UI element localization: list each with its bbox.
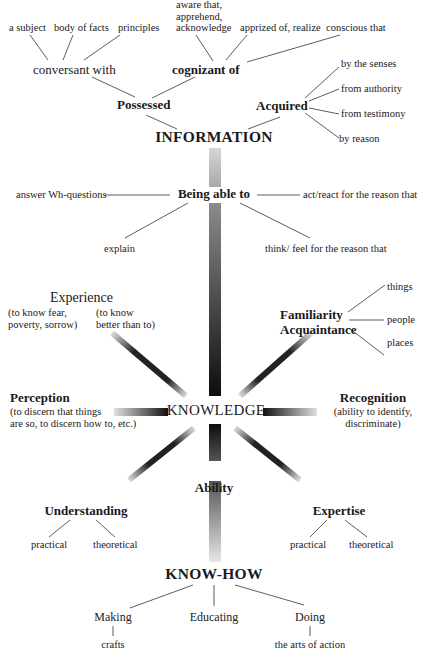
bar-understanding	[129, 428, 194, 480]
source-by-reason: by reason	[339, 133, 380, 145]
synonym-conscious-that: conscious that	[326, 22, 386, 34]
knowledge-diagram: a subject body of facts principles aware…	[0, 0, 426, 657]
node-making: Making	[94, 610, 131, 625]
recognition-note: (ability to identify, discriminate)	[334, 406, 412, 430]
spine-segment-upper	[209, 203, 221, 396]
ability-act-react: act/react for the reason that	[303, 189, 417, 201]
ability-explain: explain	[104, 243, 135, 255]
synonym-apprized-of: apprized of, realize	[240, 22, 321, 34]
node-experience: Experience	[50, 290, 113, 306]
node-understanding: Understanding	[44, 503, 127, 519]
node-familiarity-acquaintance: Familiarity Acquaintance	[280, 307, 357, 337]
understanding-practical: practical	[31, 539, 67, 551]
bar-familiarity	[240, 333, 311, 396]
node-educating: Educating	[190, 610, 239, 625]
bar-experience	[112, 333, 186, 396]
node-being-able-to: Being able to	[178, 186, 250, 202]
ability-think-feel: think/ feel for the reason that	[265, 243, 387, 255]
doing-arts-of-action: the arts of action	[275, 639, 345, 651]
node-perception: Perception	[10, 390, 70, 406]
familiar-people: people	[387, 314, 415, 326]
understanding-theoretical: theoretical	[93, 539, 137, 551]
node-conversant-with: conversant with	[33, 62, 116, 78]
ability-answer-wh-questions: answer Wh-questions	[16, 189, 107, 201]
node-acquired: Acquired	[256, 98, 308, 114]
node-information: INFORMATION	[155, 128, 273, 146]
spine-segment-lower	[209, 424, 221, 461]
source-from-testimony: from testimony	[341, 108, 405, 120]
familiar-things: things	[387, 281, 413, 293]
node-doing: Doing	[295, 610, 325, 625]
object-body-of-facts: body of facts	[54, 22, 109, 34]
object-principles: principles	[118, 22, 159, 34]
node-ability: Ability	[195, 480, 233, 496]
bar-recognition	[263, 408, 317, 416]
expertise-theoretical: theoretical	[349, 539, 393, 551]
object-a-subject: a subject	[9, 22, 46, 34]
node-cognizant-of: cognizant of	[172, 62, 240, 78]
perception-note: (to discern that things are so, to disce…	[10, 406, 136, 430]
synonym-aware-that: aware that, apprehend, acknowledge	[176, 0, 231, 34]
source-from-authority: from authority	[341, 83, 402, 95]
spine-segment-info	[209, 148, 221, 187]
bar-expertise	[235, 428, 300, 480]
familiar-places: places	[387, 337, 413, 349]
node-knowledge: KNOWLEDGE	[167, 402, 266, 419]
node-possessed: Possessed	[117, 97, 170, 113]
experience-note-fear: (to know fear, poverty, sorrow)	[8, 307, 77, 331]
node-expertise: Expertise	[313, 503, 366, 519]
making-crafts: crafts	[101, 639, 124, 651]
source-by-the-senses: by the senses	[341, 58, 396, 70]
node-know-how: KNOW-HOW	[165, 565, 262, 583]
experience-note-better: (to know better than to)	[96, 307, 155, 331]
node-recognition: Recognition	[340, 390, 406, 406]
expertise-practical: practical	[290, 539, 326, 551]
